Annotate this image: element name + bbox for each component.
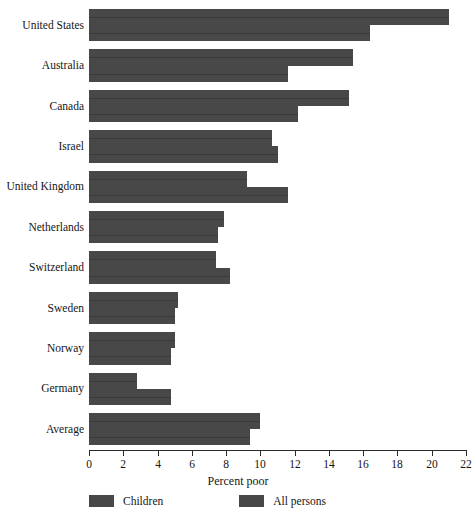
bar-children [89, 251, 216, 267]
bar-group [89, 292, 466, 324]
bar-all-persons [89, 66, 288, 82]
bar-children [89, 9, 449, 25]
x-tick-label: 14 [314, 458, 344, 471]
legend-swatch-children [89, 495, 114, 507]
category-label: United States [22, 19, 84, 32]
poverty-bar-chart: United StatesAustraliaCanadaIsraelUnited… [0, 0, 476, 517]
bar-group [89, 171, 466, 203]
x-tick [192, 450, 193, 456]
category-label: United Kingdom [6, 180, 84, 193]
bar-all-persons [89, 146, 278, 162]
bar-all-persons [89, 106, 298, 122]
x-axis-line [89, 450, 467, 451]
bar-all-persons [89, 268, 230, 284]
x-axis-title: Percent poor [0, 474, 476, 489]
category-label: Israel [58, 140, 84, 153]
bar-children [89, 130, 272, 146]
bar-children [89, 211, 224, 227]
bar-children [89, 413, 260, 429]
legend-swatch-all-persons [239, 495, 264, 507]
bar-all-persons [89, 429, 250, 445]
chart-legend: Children All persons [89, 492, 326, 510]
x-tick-label: 0 [74, 458, 104, 471]
x-tick [295, 450, 296, 456]
x-tick-label: 6 [177, 458, 207, 471]
category-label: Canada [50, 100, 84, 113]
bar-all-persons [89, 227, 218, 243]
x-tick-label: 22 [451, 458, 476, 471]
category-label: Germany [41, 382, 84, 395]
x-tick-label: 16 [348, 458, 378, 471]
x-tick-label: 10 [245, 458, 275, 471]
x-tick [123, 450, 124, 456]
x-axis-title-text: Percent poor [208, 474, 269, 488]
x-tick-label: 8 [211, 458, 241, 471]
x-tick [363, 450, 364, 456]
bar-group [89, 130, 466, 162]
category-label-column: United StatesAustraliaCanadaIsraelUnited… [0, 4, 84, 450]
bar-all-persons [89, 187, 288, 203]
legend-item-all-persons: All persons [239, 495, 326, 507]
x-tick-label: 20 [417, 458, 447, 471]
bar-children [89, 49, 353, 65]
bar-all-persons [89, 25, 370, 41]
bar-group [89, 373, 466, 405]
bar-group [89, 251, 466, 283]
bar-group [89, 49, 466, 81]
category-label: Average [46, 423, 84, 436]
x-tick [226, 450, 227, 456]
x-tick [158, 450, 159, 456]
category-label: Australia [42, 59, 84, 72]
category-label: Switzerland [29, 261, 84, 274]
bar-all-persons [89, 348, 171, 364]
bar-children [89, 332, 175, 348]
bar-children [89, 373, 137, 389]
x-tick-label: 18 [382, 458, 412, 471]
bar-children [89, 292, 178, 308]
x-tick [432, 450, 433, 456]
x-tick-label: 2 [108, 458, 138, 471]
legend-item-children: Children [89, 495, 163, 507]
category-label: Netherlands [28, 221, 84, 234]
x-tick-label: 12 [280, 458, 310, 471]
x-tick [89, 450, 90, 456]
category-label: Sweden [48, 302, 84, 315]
bar-group [89, 211, 466, 243]
x-tick [329, 450, 330, 456]
bar-all-persons [89, 308, 175, 324]
x-tick [397, 450, 398, 456]
category-label: Norway [47, 342, 84, 355]
plot-area [89, 4, 466, 450]
bar-children [89, 171, 247, 187]
x-tick [260, 450, 261, 456]
legend-label-all-persons: All persons [273, 495, 326, 507]
bar-children [89, 90, 349, 106]
x-tick-label: 4 [143, 458, 173, 471]
bar-all-persons [89, 389, 171, 405]
legend-label-children: Children [123, 495, 163, 507]
bar-group [89, 9, 466, 41]
x-tick [466, 450, 467, 456]
bar-group [89, 332, 466, 364]
bar-group [89, 90, 466, 122]
bar-group [89, 413, 466, 445]
